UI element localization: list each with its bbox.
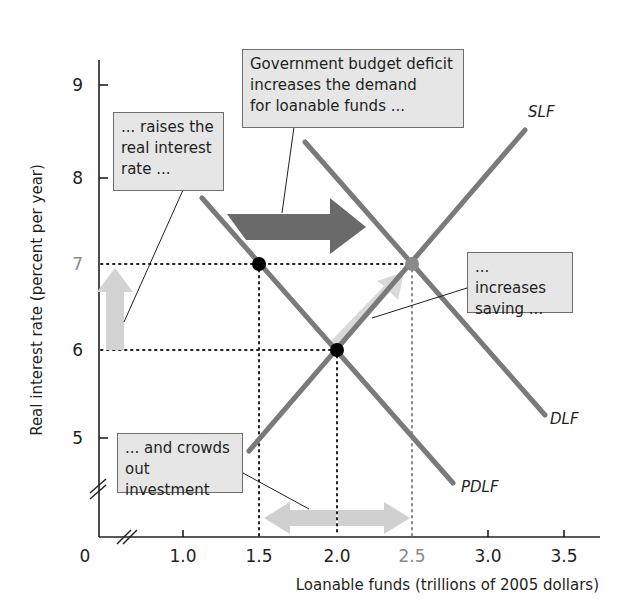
svg-text:6: 6 [72, 340, 83, 360]
demand-shift-arrow-icon [227, 198, 366, 254]
svg-text:0: 0 [80, 546, 91, 566]
crowd-annotation: ... and crowds out investment [117, 433, 243, 493]
initial-equilibrium-point [330, 343, 344, 357]
svg-text:1.0: 1.0 [169, 546, 196, 566]
pdlf-label: PDLF [461, 478, 499, 496]
rate-rise-arrow-icon [97, 268, 133, 350]
dlf-label: DLF [550, 410, 579, 428]
svg-text:7: 7 [72, 254, 83, 274]
svg-text:9: 9 [72, 75, 83, 95]
saving-annotation: ... increases saving ... [467, 252, 573, 313]
svg-text:8: 8 [72, 168, 83, 188]
y-tick-labels: 9 8 7 6 5 [72, 75, 83, 448]
investment-point [252, 257, 266, 271]
svg-text:3.5: 3.5 [550, 546, 577, 566]
y-axis-break-icon [90, 479, 106, 499]
rate-annotation: ... raises the real interest rate ... [113, 112, 224, 191]
svg-text:2.0: 2.0 [323, 546, 350, 566]
svg-text:5: 5 [72, 428, 83, 448]
new-equilibrium-point [405, 257, 419, 271]
svg-text:2.5: 2.5 [398, 546, 425, 566]
deficit-annotation: Government budget deficit increases the … [242, 49, 464, 128]
svg-text:3.0: 3.0 [474, 546, 501, 566]
y-axis-title: Real interest rate (percent per year) [28, 164, 46, 436]
x-tick-labels: 0 1.0 1.5 2.0 2.5 3.0 3.5 [80, 546, 578, 566]
slf-label: SLF [528, 103, 555, 121]
x-axis-title: Loanable funds (trillions of 2005 dollar… [296, 576, 599, 594]
svg-text:1.5: 1.5 [245, 546, 272, 566]
